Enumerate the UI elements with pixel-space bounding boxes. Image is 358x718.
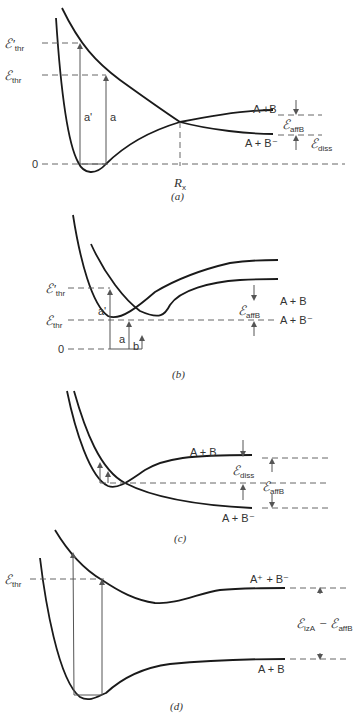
ab-ground-curve <box>73 215 278 317</box>
transition-a-prime-label-b: a' <box>98 306 106 317</box>
transition-a-label-b: a <box>119 334 125 345</box>
asymptote-upper-b: A + B <box>280 296 307 307</box>
e-thr-label-d: ℰthr <box>4 573 21 589</box>
ab-ionic-curve <box>74 391 252 508</box>
panel-d <box>30 530 350 699</box>
ab-repulsive-curve <box>62 8 273 134</box>
zero-label-a: 0 <box>32 159 38 170</box>
asymptote-lower-d: A + B <box>258 664 285 675</box>
asymptote-lower-a: A + B⁻ <box>245 138 278 149</box>
e-thr-label-b: ℰthr <box>45 314 62 330</box>
ionic-curve <box>55 530 285 603</box>
transition-b-label: b <box>133 341 139 352</box>
e-aff-label-c: ℰaffB <box>262 480 284 496</box>
caption-d: (d) <box>170 700 183 712</box>
ab-ground-curve <box>67 391 252 487</box>
asymptote-lower-c: A + B⁻ <box>222 513 255 524</box>
panel-a <box>42 8 345 172</box>
ab-ground-curve <box>56 18 273 172</box>
transition-a-label: a <box>110 112 116 123</box>
potential-curves-diagram <box>0 0 358 718</box>
caption-c: (c) <box>174 532 186 544</box>
e-aff-label-b: ℰaffB <box>238 304 260 320</box>
e-thr-label-a: ℰthr <box>4 69 21 85</box>
e-aff-label-a: ℰaffB <box>282 118 304 134</box>
asymptote-upper-a: A +B <box>253 104 277 115</box>
panel-b <box>68 215 278 349</box>
transition-a-prime-label: a' <box>84 112 92 123</box>
asymptote-upper-c: A + B <box>190 447 217 458</box>
asymptote-upper-d: A⁺ + B⁻ <box>250 574 289 585</box>
e-thr-prime-label-a: ℰ'thr <box>4 37 24 53</box>
caption-a: (a) <box>171 190 184 202</box>
zero-label-b: 0 <box>58 344 64 355</box>
e-thr-prime-label-b: ℰ'thr <box>45 282 65 298</box>
neutral-ground-curve <box>40 558 285 699</box>
e-diss-label-a: ℰdiss <box>310 137 332 153</box>
asymptote-lower-b: A + B⁻ <box>280 315 313 326</box>
caption-b: (b) <box>172 368 185 380</box>
e-diss-label-c: ℰdiss <box>232 464 254 480</box>
e-iza-minus-e-affb-label: ℰizA − ℰaffB <box>296 617 353 633</box>
